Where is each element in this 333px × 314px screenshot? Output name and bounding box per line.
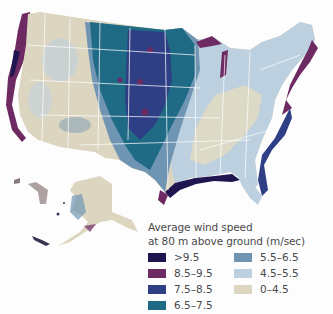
legend-item-gt-9_5: >9.5: [148, 250, 200, 264]
alaska: [14, 176, 138, 246]
legend-label: 7.5–8.5: [174, 283, 213, 295]
legend-swatch: [148, 269, 166, 278]
zone-8_5-9_5-speckle: [118, 78, 123, 83]
legend-title-line1: Average wind speed: [148, 220, 333, 234]
legend-label: 5.5–6.5: [260, 251, 299, 263]
zone-8_5-9_5-speckle: [137, 79, 143, 85]
zone-5_5-6_5-west-speckle: [59, 117, 91, 133]
legend-swatch: [148, 253, 166, 262]
legend-swatch: [234, 253, 252, 262]
legend-item-7_5-8_5: 7.5–8.5: [148, 282, 213, 296]
legend-label: 8.5–9.5: [174, 267, 213, 279]
zone-4_5-5_5-west-speckle: [42, 38, 78, 82]
legend-label: 4.5–5.5: [260, 267, 299, 279]
legend-label: 6.5–7.5: [174, 299, 213, 311]
legend-swatch: [234, 269, 252, 278]
legend-item-6_5-7_5: 6.5–7.5: [148, 298, 213, 312]
map-legend: Average wind speed at 80 m above ground …: [148, 220, 333, 248]
legend-item-0-4_5: 0–4.5: [234, 282, 289, 296]
legend-swatch: [148, 285, 166, 294]
legend-label: 0–4.5: [260, 283, 289, 295]
legend-item-5_5-6_5: 5.5–6.5: [234, 250, 299, 264]
legend-swatch: [148, 301, 166, 310]
zone-8_5-9_5-speckle: [142, 109, 149, 116]
legend-item-4_5-5_5: 4.5–5.5: [234, 266, 299, 280]
legend-item-8_5-9_5: 8.5–9.5: [148, 266, 213, 280]
zone-4_5-5_5-west-speckle: [28, 82, 52, 118]
legend-label: >9.5: [174, 251, 200, 263]
legend-title-line2: at 80 m above ground (m/sec): [148, 234, 333, 248]
legend-swatch: [234, 285, 252, 294]
